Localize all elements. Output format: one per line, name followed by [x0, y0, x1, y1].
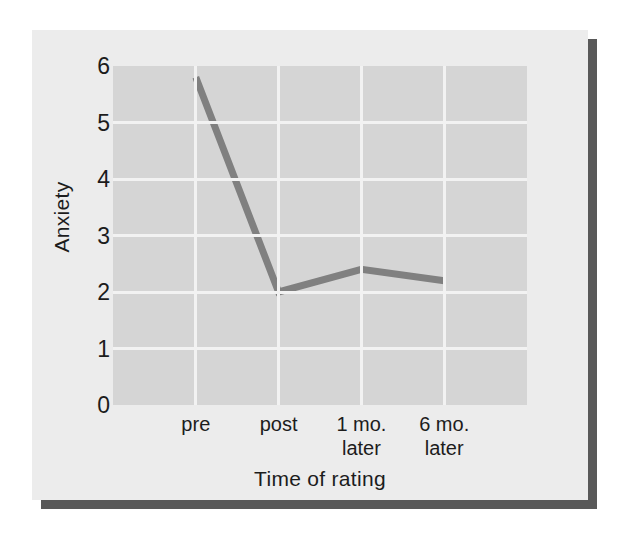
gridline-vertical — [443, 66, 446, 405]
anxiety-line-chart: Anxiety 0123456 prepost1 mo.later6 mo.la… — [32, 30, 588, 500]
gridline-horizontal — [113, 121, 527, 124]
y-axis-tick-labels: 0123456 — [84, 66, 110, 405]
y-tick-label: 6 — [84, 55, 110, 78]
x-tick-label-line1: pre — [181, 413, 210, 435]
x-tick-label-line1: 6 mo. — [419, 413, 469, 435]
y-tick-label: 3 — [84, 224, 110, 247]
x-axis-title: Time of rating — [113, 467, 527, 491]
gridline-horizontal — [113, 291, 527, 294]
gridline-vertical — [360, 66, 363, 405]
y-tick-label: 5 — [84, 111, 110, 134]
x-tick-label-line1: post — [260, 413, 298, 435]
series-anxiety-polyline — [196, 77, 444, 292]
gridline-vertical — [194, 66, 197, 405]
y-tick-label: 0 — [84, 394, 110, 417]
gridline-vertical — [277, 66, 280, 405]
x-tick-label: 6 mo.later — [389, 412, 499, 461]
y-tick-label: 1 — [84, 337, 110, 360]
y-tick-label: 4 — [84, 168, 110, 191]
gridline-horizontal — [113, 347, 527, 350]
x-axis-tick-labels: prepost1 mo.later6 mo.later — [113, 412, 527, 472]
x-tick-label-line1: 1 mo. — [336, 413, 386, 435]
plot-area — [113, 66, 527, 405]
figure-card: Anxiety 0123456 prepost1 mo.later6 mo.la… — [32, 30, 588, 500]
y-tick-label: 2 — [84, 281, 110, 304]
gridline-horizontal — [113, 234, 527, 237]
x-tick-label-line2: later — [389, 436, 499, 460]
y-axis-title: Anxiety — [50, 157, 74, 277]
gridline-horizontal — [113, 178, 527, 181]
